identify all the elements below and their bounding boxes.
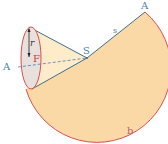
- label-apex: S: [83, 46, 90, 56]
- label-slant-height: s: [113, 26, 117, 36]
- label-arc: b: [127, 126, 133, 136]
- apex-point: [86, 57, 88, 59]
- label-radius: r: [30, 38, 34, 48]
- label-point-a-right: A: [141, 1, 148, 11]
- diagram-canvas: [0, 0, 168, 144]
- label-base-center: F: [33, 54, 40, 64]
- label-point-a-left: A: [3, 62, 10, 72]
